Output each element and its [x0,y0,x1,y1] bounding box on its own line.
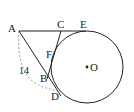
label-arc-length: 14 [19,65,29,76]
label-f: F [46,48,52,60]
segment-ad [19,31,61,96]
label-o: O [90,61,98,73]
center-dot [86,66,89,69]
label-a: A [8,22,16,34]
geometry-diagram: A C E F B D O 14 [0,0,134,112]
label-c: C [57,18,64,30]
label-b: B [40,72,47,84]
label-e: E [80,18,87,30]
label-d: D [51,90,59,102]
